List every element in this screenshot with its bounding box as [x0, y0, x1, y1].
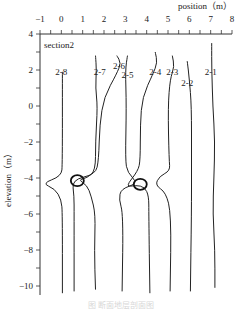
y-axis-label: elevation（m） — [3, 149, 13, 207]
y-tick-label: −8 — [23, 245, 33, 255]
series-line-2-7 — [81, 56, 98, 290]
series-label: 2-7 — [94, 67, 106, 77]
series-line-2-2 — [187, 61, 191, 291]
axes: −1012345678420−2−4−6−8−10 — [19, 14, 235, 295]
x-tick-label: 6 — [187, 14, 192, 24]
y-tick-label: −6 — [23, 209, 33, 219]
x-tick-label: 5 — [166, 14, 171, 24]
x-tick-label: 0 — [59, 14, 64, 24]
section-annotation: section2 — [44, 40, 74, 50]
series-label: 2-5 — [121, 70, 133, 80]
series-line-2-8 — [46, 72, 62, 293]
series-line-2-5 — [120, 56, 135, 292]
series-label: 2-4 — [149, 67, 161, 77]
y-tick-label: −4 — [23, 173, 33, 183]
x-axis-label: position（m） — [178, 1, 232, 11]
series-label: 2-3 — [166, 67, 178, 77]
chart-area: −1012345678420−2−4−6−8−10 2-82-72-62-52-… — [0, 0, 242, 313]
circle-marker — [71, 175, 84, 186]
x-tick-label: 1 — [80, 14, 85, 24]
series-line-2-6 — [73, 56, 120, 292]
figure-caption: 图 断面地层剖面图 — [0, 299, 242, 310]
series-label: 2-8 — [55, 67, 67, 77]
circle-marker — [134, 179, 147, 190]
series-line-2-3 — [157, 56, 174, 292]
series-line-2-4 — [128, 52, 156, 293]
y-tick-label: 2 — [29, 65, 34, 75]
x-tick-label: 2 — [102, 14, 107, 24]
y-tick-label: 4 — [29, 29, 34, 39]
y-tick-label: −2 — [23, 137, 33, 147]
x-tick-label: 4 — [144, 14, 149, 24]
series-label: 2-2 — [181, 78, 193, 88]
series-lines: 2-82-72-62-52-42-32-22-1 — [46, 43, 217, 293]
series-label: 2-1 — [205, 67, 217, 77]
x-tick-label: −1 — [35, 14, 45, 24]
x-tick-label: 7 — [208, 14, 213, 24]
y-tick-label: 0 — [29, 101, 34, 111]
series-line-2-1 — [212, 43, 215, 288]
y-tick-label: −10 — [19, 281, 34, 291]
x-tick-label: 3 — [123, 14, 128, 24]
x-tick-label: 8 — [230, 14, 235, 24]
